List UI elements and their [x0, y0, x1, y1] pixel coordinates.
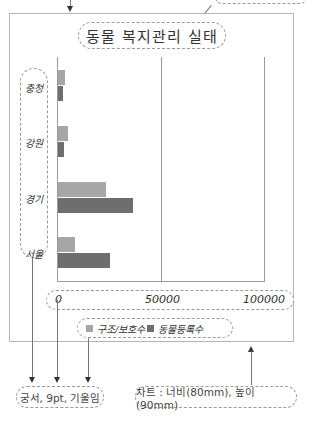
pointer-line-1: [32, 258, 33, 378]
font-annotation: 궁서, 9pt, 기울임: [16, 386, 104, 408]
x-tick-50000: 50000: [145, 293, 180, 306]
legend-swatch-registration: [147, 325, 154, 332]
bar-registration-1: [58, 142, 64, 157]
legend-label-rescue: 구조/보호수: [97, 321, 145, 336]
size-arrow-line: [251, 351, 252, 385]
pointer-arrow-1: [29, 377, 35, 383]
gridline-50000: [161, 57, 162, 282]
category-label-chungcheong: 충청: [20, 80, 48, 95]
legend: 구조/보호수 동물등록수: [77, 318, 233, 338]
legend-label-registration: 동물등록수: [158, 321, 203, 336]
chart-title: 동물 복지관리 실태: [78, 22, 226, 49]
legend-swatch-rescue: [86, 325, 93, 332]
bar-rescue-2: [58, 182, 106, 197]
category-label-seoul: 서울: [20, 246, 48, 261]
category-label-gangwon: 강원: [20, 135, 48, 150]
top-right-annotation-pill: [215, 0, 307, 4]
x-tick-100000: 100000: [243, 293, 285, 306]
bar-registration-3: [58, 253, 110, 268]
bar-registration-2: [58, 198, 133, 213]
pointer-arrow-2: [54, 377, 60, 383]
pointer-arrow-3: [85, 377, 91, 383]
category-axis-pill: [20, 68, 48, 258]
bar-rescue-1: [58, 126, 68, 141]
pointer-line-2: [57, 300, 58, 378]
bar-registration-0: [58, 86, 63, 101]
top-arrow-head: [67, 6, 73, 12]
pointer-line-3: [88, 338, 89, 378]
x-axis-ticks-pill: 0 50000 100000: [46, 290, 294, 310]
x-axis-line: [57, 281, 265, 282]
bar-rescue-0: [58, 70, 65, 85]
gridline-100000: [264, 57, 265, 282]
bar-rescue-3: [58, 237, 75, 252]
category-label-gyeonggi: 경기: [20, 191, 48, 206]
size-annotation: 차트 : 너비(80mm), 높이(90mm): [135, 386, 297, 408]
